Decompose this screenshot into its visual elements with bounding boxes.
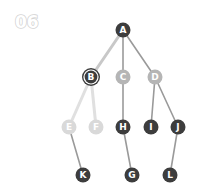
- node-j: J: [171, 120, 186, 135]
- node-label: C: [120, 72, 127, 82]
- node-g: G: [125, 168, 140, 183]
- node-e: E: [62, 120, 77, 135]
- node-label: F: [93, 122, 99, 132]
- node-l: L: [163, 168, 178, 183]
- node-label: E: [66, 122, 72, 132]
- node-h: H: [116, 120, 131, 135]
- edge-d-i: [151, 77, 155, 127]
- node-label: B: [88, 72, 95, 82]
- node-label: H: [119, 122, 127, 132]
- node-d: D: [148, 70, 163, 85]
- edge-d-j: [155, 77, 178, 127]
- edge-a-d: [123, 30, 155, 77]
- node-label: D: [151, 72, 158, 82]
- node-label: G: [128, 170, 135, 180]
- node-i: I: [144, 120, 159, 135]
- node-b: B: [82, 68, 100, 86]
- node-label: L: [167, 170, 173, 180]
- node-f: F: [89, 120, 104, 135]
- tree-edges: [69, 30, 178, 175]
- node-a: A: [116, 23, 131, 38]
- node-label: J: [175, 122, 179, 132]
- tree-diagram: ABCDEFHIJKGL: [0, 0, 204, 192]
- node-label: A: [120, 25, 127, 35]
- node-label: K: [80, 170, 88, 180]
- node-k: K: [76, 168, 91, 183]
- node-label: I: [149, 122, 152, 132]
- node-c: C: [116, 70, 131, 85]
